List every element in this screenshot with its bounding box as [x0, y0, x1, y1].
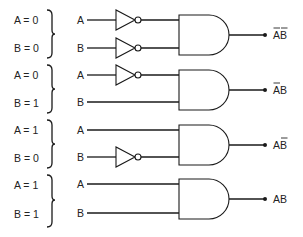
- not-gate-b-icon: [116, 38, 135, 58]
- condition-a: A = 0: [14, 69, 38, 81]
- brace-icon: [47, 175, 55, 227]
- not-gate-b-icon: [116, 147, 135, 167]
- output-label: AB: [273, 193, 287, 205]
- condition-b: B = 1: [14, 208, 39, 220]
- inversion-bubble-icon: [135, 154, 141, 160]
- condition-a: A = 1: [14, 124, 38, 136]
- input-b-label: B: [77, 207, 84, 219]
- inversion-bubble-icon: [135, 45, 141, 51]
- output-node-icon: [263, 197, 267, 201]
- brace-icon: [47, 120, 55, 168]
- output-label: AB: [273, 29, 287, 41]
- input-a-label: A: [77, 124, 84, 136]
- condition-a: A = 0: [14, 14, 38, 26]
- input-a-label: A: [77, 178, 84, 190]
- output-node-icon: [263, 143, 267, 147]
- decoder-group-1: A = 0 B = 0 A B AB: [14, 10, 288, 58]
- output-label: AB: [273, 139, 287, 151]
- input-b-label: B: [77, 151, 84, 163]
- output-node-icon: [263, 88, 267, 92]
- input-a-label: A: [77, 69, 84, 81]
- and-gate-icon: [179, 15, 229, 55]
- and-gate-icon: [179, 70, 229, 110]
- input-a-label: A: [77, 14, 84, 26]
- not-gate-a-icon: [116, 65, 135, 85]
- brace-icon: [47, 65, 55, 113]
- condition-a: A = 1: [14, 179, 38, 191]
- not-gate-a-icon: [116, 10, 135, 30]
- condition-b: B = 0: [14, 42, 39, 54]
- output-label: AB: [273, 84, 287, 96]
- brace-icon: [47, 10, 55, 58]
- inversion-bubble-icon: [135, 72, 141, 78]
- inversion-bubble-icon: [135, 17, 141, 23]
- decoder-group-3: A = 1 B = 0 A B AB: [14, 120, 288, 168]
- condition-b: B = 1: [14, 97, 39, 109]
- and-gate-icon: [179, 179, 229, 219]
- input-b-label: B: [77, 42, 84, 54]
- decoder-group-4: A = 1 B = 1 A B AB: [14, 175, 287, 227]
- logic-diagram: A = 0 B = 0 A B AB A = 0 B = 1 A B AB: [0, 0, 303, 237]
- and-gate-icon: [179, 125, 229, 165]
- output-node-icon: [263, 33, 267, 37]
- decoder-group-2: A = 0 B = 1 A B AB: [14, 65, 287, 113]
- condition-b: B = 0: [14, 152, 39, 164]
- input-b-label: B: [77, 96, 84, 108]
